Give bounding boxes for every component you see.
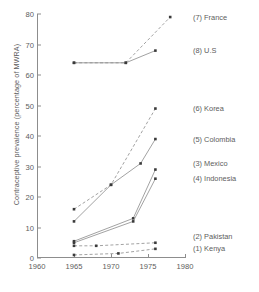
plot-area: 01020304050607080 19601965197019751980 (37, 14, 185, 258)
chart-container: Contraceptive prevalence (percentage of … (0, 0, 259, 292)
data-point-marker (73, 254, 76, 257)
series-lines (37, 14, 185, 258)
series-label-france: (7) France (193, 13, 227, 22)
data-point-marker (132, 220, 135, 223)
x-tick-label: 1960 (29, 262, 46, 271)
series-kenya (73, 248, 157, 257)
y-tick-label: 50 (26, 101, 34, 110)
x-tick-label: 1980 (177, 262, 194, 271)
data-point-marker (154, 241, 157, 244)
series-pakistan (73, 241, 157, 247)
y-axis-title: Contraceptive prevalence (percentage of … (12, 25, 21, 225)
data-point-marker (154, 248, 157, 251)
y-tick-label: 30 (26, 162, 34, 171)
series-label-mexico: (3) Mexico (193, 159, 228, 168)
series-line-mexico (74, 170, 155, 242)
series-label-korea: (6) Korea (193, 104, 224, 113)
data-point-marker (139, 162, 142, 165)
series-line-france (74, 17, 170, 63)
data-point-marker (154, 138, 157, 141)
y-tick-label: 20 (26, 193, 34, 202)
x-tick-label: 1970 (103, 262, 120, 271)
series-line-colombia (74, 139, 155, 221)
series-us (73, 49, 157, 64)
data-point-marker (154, 168, 157, 171)
series-label-pakistan: (2) Pakistan (193, 232, 232, 241)
data-point-marker (73, 220, 76, 223)
x-tick-label: 1965 (66, 262, 83, 271)
y-tick-label: 80 (26, 10, 34, 19)
series-line-us (74, 51, 155, 63)
data-point-marker (73, 62, 76, 65)
series-line-indonesia (74, 179, 155, 243)
data-point-marker (110, 184, 113, 187)
data-point-marker (117, 252, 120, 255)
series-line-pakistan (74, 243, 155, 246)
series-label-kenya: (1) Kenya (193, 244, 225, 253)
y-tick-label: 10 (26, 223, 34, 232)
series-colombia (73, 138, 157, 223)
data-point-marker (73, 241, 76, 244)
data-point-marker (95, 245, 98, 248)
series-label-indonesia: (4) Indonesia (193, 174, 236, 183)
data-point-marker (73, 208, 76, 211)
data-point-marker (73, 245, 76, 248)
series-line-kenya (74, 249, 155, 255)
x-tick-mark (185, 254, 186, 258)
y-tick-label: 60 (26, 71, 34, 80)
series-label-colombia: (5) Colombia (193, 135, 235, 144)
data-point-marker (169, 16, 172, 19)
data-point-marker (154, 107, 157, 110)
series-france (73, 16, 172, 64)
data-point-marker (125, 62, 128, 65)
series-mexico (73, 168, 157, 242)
y-tick-label: 40 (26, 132, 34, 141)
x-tick-label: 1975 (140, 262, 157, 271)
data-point-marker (154, 177, 157, 180)
series-label-us: (8) U.S (193, 46, 216, 55)
data-point-marker (154, 49, 157, 52)
y-tick-label: 70 (26, 40, 34, 49)
